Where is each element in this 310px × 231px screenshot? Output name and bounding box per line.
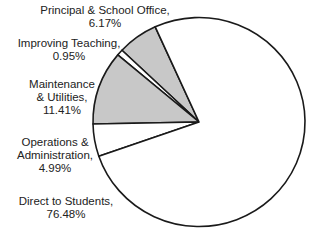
label-maintenance-name: Maintenance — [22, 78, 102, 91]
label-maintenance-value: 11.41% — [22, 104, 102, 117]
label-principal: Principal & School Office, 6.17% — [40, 4, 170, 30]
label-direct: Direct to Students, 76.48% — [16, 195, 116, 221]
label-direct-name: Direct to Students, — [16, 195, 116, 208]
label-improving-value: 0.95% — [14, 50, 124, 63]
label-improving-name: Improving Teaching, — [14, 37, 124, 50]
label-operations-value: 4.99% — [10, 162, 100, 175]
label-principal-value: 6.17% — [40, 17, 170, 30]
label-principal-name: Principal & School Office, — [40, 4, 170, 17]
label-improving: Improving Teaching, 0.95% — [14, 37, 124, 63]
label-maintenance-name-2: & Utilities, — [22, 91, 102, 104]
label-maintenance: Maintenance & Utilities, 11.41% — [22, 78, 102, 117]
label-direct-value: 76.48% — [16, 208, 116, 221]
label-operations-name: Operations & — [10, 136, 100, 149]
label-operations-name-2: Administration, — [10, 149, 100, 162]
label-operations: Operations & Administration, 4.99% — [10, 136, 100, 175]
